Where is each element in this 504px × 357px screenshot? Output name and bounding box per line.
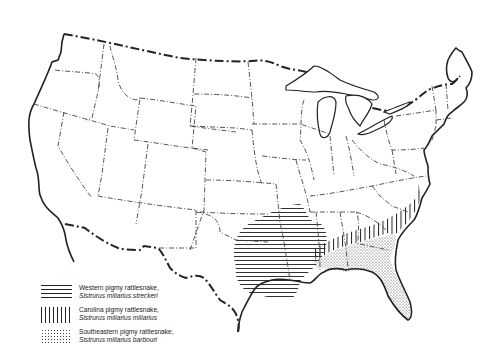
- lake-michigan: [317, 97, 336, 138]
- legend-scientific-name: Sistrurus miliarius barbouri: [79, 336, 174, 344]
- horizontal-lines-swatch-icon: [41, 285, 72, 300]
- legend-item-western: Western pigmy rattlesnake, Sistrurus mil…: [41, 284, 271, 306]
- stipple-dots-swatch-icon: [41, 329, 72, 344]
- legend-common-name: Carolina pigmy rattlesnake,: [79, 306, 159, 313]
- lake-ontario: [384, 102, 410, 114]
- legend-common-name: Western pigmy rattlesnake,: [79, 284, 159, 291]
- canada-border: [64, 34, 460, 111]
- legend-item-southeastern: Southeastern pigmy rattlesnake, Sistruru…: [41, 328, 271, 350]
- map-legend: Western pigmy rattlesnake, Sistrurus mil…: [41, 284, 271, 350]
- legend-scientific-name: Sistrurus miliarius streckeri: [79, 292, 159, 300]
- legend-common-name: Southeastern pigmy rattlesnake,: [79, 328, 174, 335]
- lake-huron: [345, 95, 372, 126]
- west-coast: [29, 34, 74, 262]
- legend-item-carolina: Carolina pigmy rattlesnake, Sistrurus mi…: [41, 306, 271, 328]
- vertical-lines-swatch-icon: [41, 307, 72, 323]
- legend-scientific-name: Sistrurus miliarius miliarius: [79, 314, 159, 322]
